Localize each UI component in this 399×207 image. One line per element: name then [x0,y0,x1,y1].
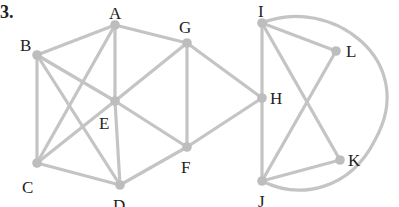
node-H [257,93,267,103]
node-label-E: E [99,114,109,133]
node-label-C: C [22,178,33,197]
node-label-K: K [348,151,361,170]
edge-D-E [115,101,120,185]
node-label-F: F [181,158,190,177]
edge-F-H [187,98,262,147]
edge-I-L [262,23,336,51]
node-label-A: A [109,4,122,23]
node-E [110,96,120,106]
graph-diagram: ABCDEFGHIJKL 3. [0,0,399,207]
edge-L-J [262,51,336,181]
edge-E-G [115,43,187,101]
node-label-L: L [346,42,356,61]
node-D [115,180,125,190]
node-label-B: B [20,36,31,55]
edge-E-F [115,101,187,147]
node-F [182,142,192,152]
edge-D-F [120,147,187,185]
node-label-G: G [179,18,191,37]
figure-number-label: 3. [0,2,14,22]
node-J [257,176,267,186]
node-label-I: I [258,2,264,21]
node-C [32,158,42,168]
node-label-J: J [258,192,265,207]
edge-A-G [115,25,187,43]
node-label-H: H [270,89,282,108]
edge-G-H [187,43,262,98]
node-L [331,46,341,56]
edges-layer [37,16,387,190]
node-B [32,50,42,60]
node-K [335,155,345,165]
edge-A-B [37,25,115,55]
node-label-D: D [113,196,125,207]
node-G [182,38,192,48]
